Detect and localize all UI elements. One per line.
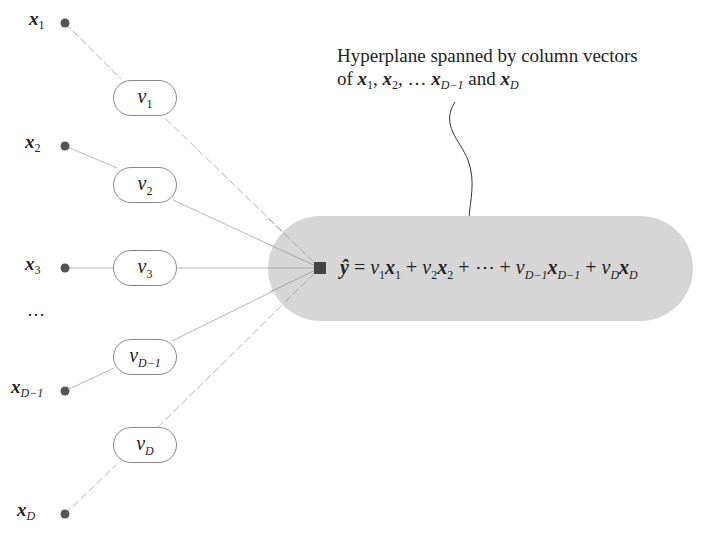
input-label-2: x2 [25,131,41,156]
weight-label-2: v2 [138,172,153,199]
input-label-1: x1 [29,8,45,33]
weight-node-d: vD [113,427,177,463]
weight-label-3: v3 [138,255,153,282]
input-label-d: xD [17,499,35,524]
input-label-3: x3 [25,253,41,278]
weight-label-d: vD [136,432,154,459]
weight-node-d-minus-1: vD−1 [113,339,177,375]
weight-label-1: v1 [138,85,153,112]
weight-node-1: v1 [113,80,177,116]
center-node [314,262,326,274]
weight-node-3: v3 [113,250,177,286]
annotation-line-1: Hyperplane spanned by column vectors [337,44,638,67]
input-label-d-minus-1: xD−1 [11,376,43,401]
output-equation: ŷ = v1x1 + v2x2 + ⋯ + vD−1xD−1 + vDxD [340,255,638,283]
weight-node-2: v2 [113,167,177,203]
hyperplane-annotation: Hyperplane spanned by column vectors of … [337,44,638,97]
annotation-line-2: of x1, x2, … xD−1 and xD [337,67,638,97]
weight-label-d-minus-1: vD−1 [129,344,161,371]
ellipsis: … [27,300,47,321]
